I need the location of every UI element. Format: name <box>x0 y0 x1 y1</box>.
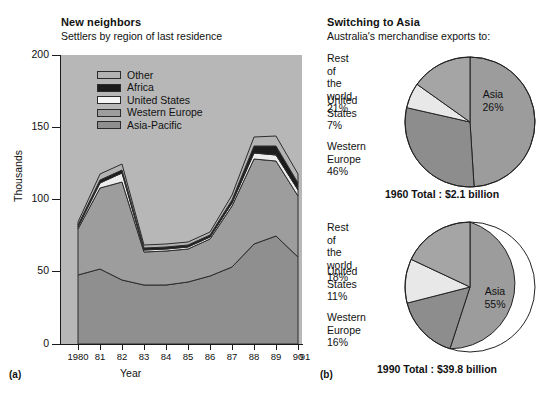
pie-1990-we-name: Western Europe <box>327 311 366 336</box>
pie-1990-rest-name: Rest of the world <box>327 221 352 271</box>
pie-1960-we-value: 46% <box>327 165 366 178</box>
x-tick-label-86: 86 <box>199 351 221 362</box>
left-chart-subtitle: Settlers by region of last residence <box>61 30 222 42</box>
x-tick-1980 <box>78 345 79 350</box>
panel-switching-to-asia: Switching to Asia Australia's merchandis… <box>315 0 552 399</box>
pie-1990-us-value: 11% <box>327 290 357 303</box>
pie-1960-asia-name: Asia <box>483 88 503 100</box>
x-tick-label-85: 85 <box>177 351 199 362</box>
pie-1990-asia-value: 55% <box>484 298 505 310</box>
pie-1960-asia-value: 26% <box>482 101 503 113</box>
x-tick-label-89: 89 <box>265 351 287 362</box>
legend-swatch-united-states <box>97 96 121 104</box>
legend-item-western-europe: Western Europe <box>97 107 203 120</box>
pie-1960-we-name: Western Europe <box>327 140 366 165</box>
legend-swatch-other <box>97 71 121 79</box>
legend-label-africa: Africa <box>127 82 154 93</box>
y-tick-50 <box>52 271 61 272</box>
legend-label-asia-pacific: Asia-Pacific <box>127 120 182 131</box>
x-tick-83 <box>144 345 145 350</box>
legend-label-united-states: United States <box>127 95 190 106</box>
pie-chart-1990: Asia 55% Rest of the world 18% United St… <box>315 215 552 375</box>
pie-1990-we-value: 16% <box>327 336 366 349</box>
x-tick-label-82: 82 <box>111 351 133 362</box>
x-tick-86 <box>210 345 211 350</box>
x-axis-line <box>60 344 303 345</box>
pie-1960-slice-asia <box>470 57 535 187</box>
pie-1990-us-name: United States <box>327 265 357 290</box>
pie-1990-label-western-europe: Western Europe 16% <box>327 311 366 349</box>
legend-label-other: Other <box>127 70 153 81</box>
x-tick-label-87: 87 <box>221 351 243 362</box>
right-chart-title: Switching to Asia <box>327 16 420 28</box>
legend-swatch-western-europe <box>97 109 121 117</box>
x-tick-label-88: 88 <box>243 351 265 362</box>
x-tick-label-84: 84 <box>155 351 177 362</box>
panel-new-neighbors: New neighbors Settlers by region of last… <box>0 0 315 399</box>
pie-1960-total: 1960 Total : $2.1 billion <box>385 188 499 200</box>
pie-1960-asia-label: Asia 26% <box>463 88 523 113</box>
x-tick-85 <box>188 345 189 350</box>
x-tick-label-81: 81 <box>89 351 111 362</box>
y-tick-100 <box>52 199 61 200</box>
x-tick-82 <box>122 345 123 350</box>
x-tick-81 <box>100 345 101 350</box>
pie-1990-label-united-states: United States 11% <box>327 265 357 303</box>
x-axis-label: Year <box>120 367 141 379</box>
y-tick-label-0: 0 <box>11 337 49 349</box>
pie-1990-total: 1990 Total : $39.8 billion <box>377 363 497 375</box>
y-tick-label-50: 50 <box>11 264 49 276</box>
x-tick-87 <box>232 345 233 350</box>
chart-legend: Other Africa United States Western Europ… <box>97 69 203 132</box>
y-axis-label: Thousands <box>12 131 24 221</box>
right-chart-subtitle: Australia's merchandise exports to: <box>327 30 490 42</box>
pie-1960-us-value: 7% <box>327 119 357 132</box>
pie-1960-label-western-europe: Western Europe 46% <box>327 140 366 178</box>
x-tick-label-91: 91 <box>294 351 316 362</box>
x-tick-label-83: 83 <box>133 351 155 362</box>
legend-swatch-africa <box>97 84 121 92</box>
legend-swatch-asia-pacific <box>97 121 121 129</box>
legend-item-other: Other <box>97 69 203 82</box>
pie-1990-asia-name: Asia <box>485 285 505 297</box>
pie-1960-svg <box>400 52 540 192</box>
left-chart-title: New neighbors <box>61 16 141 28</box>
y-axis-line <box>60 55 61 345</box>
pie-1960-label-united-states: United States 7% <box>327 94 357 132</box>
pie-chart-1960: Asia 26% Rest of the world 21% United St… <box>315 48 552 198</box>
y-tick-200 <box>52 55 61 56</box>
y-tick-150 <box>52 127 61 128</box>
legend-label-western-europe: Western Europe <box>127 107 203 118</box>
pie-1960-us-name: United States <box>327 94 357 119</box>
pie-1990-asia-label: Asia 55% <box>465 285 525 310</box>
x-tick-89 <box>276 345 277 350</box>
figure-label-b: (b) <box>320 369 333 380</box>
y-tick-label-200: 200 <box>11 48 49 60</box>
legend-item-united-states: United States <box>97 94 203 107</box>
legend-item-africa: Africa <box>97 82 203 95</box>
x-tick-84 <box>166 345 167 350</box>
x-tick-88 <box>254 345 255 350</box>
x-tick-90 <box>298 345 299 350</box>
legend-item-asia-pacific: Asia-Pacific <box>97 119 203 132</box>
figure-label-a: (a) <box>9 369 21 380</box>
